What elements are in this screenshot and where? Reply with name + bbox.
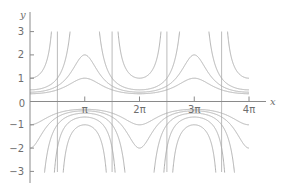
x-tick-label: 3π (182, 104, 206, 115)
solution-curve (54, 117, 115, 173)
x-axis-label: x (270, 96, 276, 107)
y-tick-label-origin: 0 (5, 98, 25, 109)
solution-curve (118, 32, 161, 79)
y-tick-label: 3 (4, 26, 24, 37)
y-tick-label: −1 (4, 119, 24, 130)
y-tick-label: −2 (4, 143, 24, 154)
solution-curve (173, 125, 216, 173)
x-tick-label: 2π (128, 104, 152, 115)
solution-curve (99, 32, 179, 90)
chart: y x 3 2 1 0 −1 −2 −3 π 2π 3π 4π (0, 0, 284, 193)
y-tick-label: −3 (4, 166, 24, 177)
y-axis-label: y (20, 9, 26, 20)
solution-curve (30, 55, 249, 92)
solution-curve (30, 78, 249, 94)
solution-curve (164, 117, 225, 173)
solution-curve (45, 113, 125, 172)
solution-curve (63, 125, 106, 173)
solution-curve (228, 32, 249, 79)
x-tick-label: 4π (237, 104, 261, 115)
solution-curves (30, 32, 249, 173)
y-tick-label: 2 (4, 49, 24, 60)
y-tick-label: 1 (4, 73, 24, 84)
x-tick-label: π (73, 104, 97, 115)
plot-area (0, 0, 284, 193)
solution-curve (154, 113, 234, 172)
